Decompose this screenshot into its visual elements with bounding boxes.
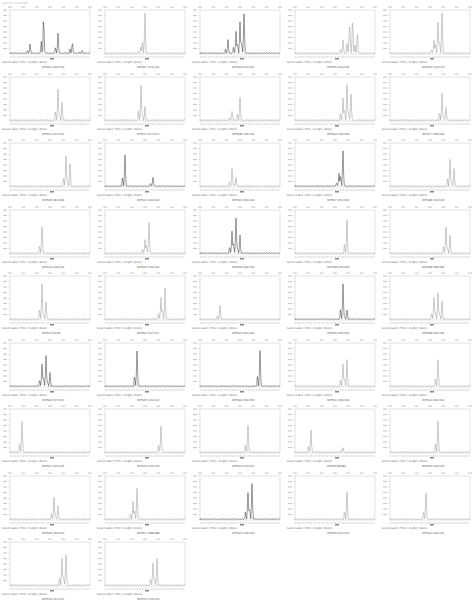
spectrum-panel: Select Label | Trim | Height | Zoom WPS1… xyxy=(382,405,472,469)
spectrum-panel: Select Label | Trim | Height | Zoom WPS1… xyxy=(382,472,472,536)
panel-controls[interactable]: Select Label | Trim | Height | Zoom xyxy=(2,128,47,131)
panel-controls[interactable]: Select Label | Trim | Height | Zoom xyxy=(2,593,47,596)
sample-label: WPS09:181/181 xyxy=(42,198,64,202)
sample-label: WPS01:149/149 xyxy=(327,398,349,402)
panel-controls[interactable]: Select Label | Trim | Height | Zoom xyxy=(382,61,427,64)
spectrum-panel: Select Label | Trim | Height | Zoom WPS0… xyxy=(2,472,92,536)
panel-controls[interactable]: Select Label | Trim | Height | Zoom xyxy=(287,261,332,264)
sample-label: WPS03:101/101 xyxy=(232,65,254,69)
panel-controls[interactable]: Select Label | Trim | Height | Zoom xyxy=(382,394,427,397)
spectrum-panel: Select Label | Trim | Height | Zoom WPS1… xyxy=(97,538,187,602)
panel-controls[interactable]: Select Label | Trim | Height | Zoom xyxy=(97,261,142,264)
spectrum-panel: Select Label | Trim | Height | Zoom WPS0… xyxy=(382,206,472,270)
panel-controls[interactable]: Select Label | Trim | Height | Zoom xyxy=(382,327,427,330)
panel-controls[interactable]: Select Label | Trim | Height | Zoom xyxy=(287,194,332,197)
sample-label: WPS09:106/106 xyxy=(232,265,254,269)
panel-controls[interactable]: Select Label | Trim | Height | Zoom xyxy=(2,194,47,197)
spectrum-panel: Select Label | Trim | Height | Zoom WPS1… xyxy=(2,206,92,270)
spectrum-panel: Select Label | Trim | Height | Zoom WPS0… xyxy=(2,405,92,469)
panel-controls[interactable]: Select Label | Trim | Height | Zoom xyxy=(382,128,427,131)
sample-label: WPS01:123/123 xyxy=(42,65,64,69)
panel-controls[interactable]: Select Label | Trim | Height | Zoom xyxy=(192,261,237,264)
sample-label: WPS08:183/183 xyxy=(422,265,444,269)
panel-controls[interactable]: Select Label | Trim | Height | Zoom xyxy=(97,460,142,463)
spectrum-panel: Select Label | Trim | Height | Zoom WPS0… xyxy=(287,73,377,137)
panel-controls[interactable]: Select Label | Trim | Height | Zoom xyxy=(382,261,427,264)
panel-controls[interactable]: Select Label | Trim | Height | Zoom xyxy=(192,527,237,530)
spectrum-panel: Select Label | Trim | Height | Zoom WPS0… xyxy=(287,139,377,203)
sample-label: WPS14:141/141 xyxy=(422,531,444,535)
spectrum-panel: Select Label | Trim | Height | Zoom WPS1… xyxy=(192,405,282,469)
panel-controls[interactable]: Select Label | Trim | Height | Zoom xyxy=(2,527,47,530)
panel-controls[interactable]: Select Label | Trim | Height | Zoom xyxy=(192,194,237,197)
panel-controls[interactable]: Select Label | Trim | Height | Zoom xyxy=(97,128,142,131)
spectrum-panel: Select Label | Trim | Height | Zoom WPS0… xyxy=(97,272,187,336)
sample-label: WPS06:121/121 xyxy=(327,531,349,535)
sample-label: WPS11:120/120 xyxy=(137,198,159,202)
sample-label: WPS10:103/103 xyxy=(232,198,254,202)
panel-controls[interactable]: Select Label | Trim | Height | Zoom xyxy=(192,394,237,397)
panel-controls[interactable]: Select Label | Trim | Height | Zoom xyxy=(97,527,142,530)
sample-label: WPS11:141/141 xyxy=(42,132,64,136)
spectrum-panel: Select Label | Trim | Height | Zoom WPS1… xyxy=(97,73,187,137)
panel-controls[interactable]: Select Label | Trim | Height | Zoom xyxy=(192,327,237,330)
spectrum-panel: Select Label | Trim | Height | Zoom WPS0… xyxy=(97,6,187,70)
panel-controls[interactable]: Select Label | Trim | Height | Zoom xyxy=(382,194,427,197)
panel-controls[interactable]: Select Label | Trim | Height | Zoom xyxy=(2,61,47,64)
sample-label: WPS10:162/162 xyxy=(422,398,444,402)
sample-label: WPS07:188/188 xyxy=(137,531,159,535)
spectrum-panel: Select Label | Trim | Height | Zoom WPS0… xyxy=(192,6,282,70)
panel-controls[interactable]: Select Label | Trim | Height | Zoom xyxy=(97,394,142,397)
panel-controls[interactable]: Select Label | Trim | Height | Zoom xyxy=(97,61,142,64)
sample-label: WPS15:121/121 xyxy=(137,398,159,402)
spectrum-panel: Select Label | Trim | Height | Zoom WPS0… xyxy=(192,73,282,137)
sample-label: WPS03:160/160 xyxy=(232,331,254,335)
spectrum-panel: Select Label | Trim | Height | Zoom WPS1… xyxy=(97,139,187,203)
spectrum-panel: Select Label | Trim | Height | Zoom WPS1… xyxy=(97,206,187,270)
sample-label: WPS05:102/102 xyxy=(327,65,349,69)
page-header: spectra overview xyxy=(2,1,28,5)
sample-label: WPS10:144/144 xyxy=(232,531,254,535)
panel-controls[interactable]: Select Label | Trim | Height | Zoom xyxy=(192,460,237,463)
spectrum-panel: Select Label | Trim | Height | Zoom WPS0… xyxy=(2,339,92,403)
sample-label: WPS01:145/145 xyxy=(42,464,64,468)
panel-controls[interactable]: Select Label | Trim | Height | Zoom xyxy=(2,327,47,330)
panel-controls[interactable]: Select Label | Trim | Height | Zoom xyxy=(287,128,332,131)
sample-label: WPS17:117/117 xyxy=(137,132,159,136)
panel-controls[interactable]: Select Label | Trim | Height | Zoom xyxy=(97,593,142,596)
panel-controls[interactable]: Select Label | Trim | Height | Zoom xyxy=(2,460,47,463)
sample-label: WPS05:113/113 xyxy=(422,65,444,69)
panel-controls[interactable]: Select Label | Trim | Height | Zoom xyxy=(287,61,332,64)
panel-controls[interactable]: Select Label | Trim | Height | Zoom xyxy=(97,327,142,330)
spectrum-panel: Select Label | Trim | Height | Zoom WPS0… xyxy=(382,139,472,203)
spectrum-panel: Select Label | Trim | Height | Zoom WPS1… xyxy=(287,206,377,270)
panel-controls[interactable]: Select Label | Trim | Height | Zoom xyxy=(382,527,427,530)
panel-controls[interactable]: Select Label | Trim | Height | Zoom xyxy=(192,128,237,131)
spectrum-panel: Select Label | Trim | Height | Zoom WPS0… xyxy=(382,6,472,70)
sample-label: WPS10:110/110 xyxy=(232,464,254,468)
panel-controls[interactable]: Select Label | Trim | Height | Zoom xyxy=(2,394,47,397)
spectrum-panel: Select Label | Trim | Height | Zoom WPS1… xyxy=(2,272,92,336)
sample-label: WPS17:166/166 xyxy=(422,132,444,136)
spectrum-panel: Select Label | Trim | Height | Zoom WPS1… xyxy=(192,139,282,203)
spectrum-panel: Select Label | Trim | Height | Zoom WPS0… xyxy=(382,272,472,336)
sample-label: WPS09:107/107 xyxy=(42,398,64,402)
sample-label: WPS08:190/190 xyxy=(422,331,444,335)
panel-controls[interactable]: Select Label | Trim | Height | Zoom xyxy=(192,61,237,64)
spectrum-panel: Select Label | Trim | Height | Zoom WPS0… xyxy=(287,472,377,536)
spectrum-panel: Select Label | Trim | Height | Zoom WPS0… xyxy=(287,272,377,336)
spectrum-panel: Select Label | Trim | Height | Zoom WPS1… xyxy=(382,339,472,403)
panel-controls[interactable]: Select Label | Trim | Height | Zoom xyxy=(2,261,47,264)
sample-label: WPS06:195/195 xyxy=(327,331,349,335)
sample-label: WPS06:130/130 xyxy=(42,531,64,535)
spectrum-panel: Select Label | Trim | Height | Zoom WPS0… xyxy=(287,6,377,70)
panel-controls[interactable]: Select Label | Trim | Height | Zoom xyxy=(382,460,427,463)
spectrum-panel: Select Label | Trim | Height | Zoom WPS0… xyxy=(192,272,282,336)
panel-controls[interactable]: Select Label | Trim | Height | Zoom xyxy=(287,327,332,330)
panel-controls[interactable]: Select Label | Trim | Height | Zoom xyxy=(97,194,142,197)
panel-controls[interactable]: Select Label | Trim | Height | Zoom xyxy=(287,394,332,397)
panel-controls[interactable]: Select Label | Trim | Height | Zoom xyxy=(287,460,332,463)
sample-label: WPS07:141/141 xyxy=(137,65,159,69)
panel-controls[interactable]: Select Label | Trim | Height | Zoom xyxy=(287,527,332,530)
sample-label: WPS16:119/119 xyxy=(42,265,64,269)
